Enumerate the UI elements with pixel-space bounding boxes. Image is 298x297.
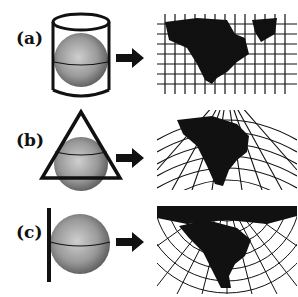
globe-cylinder-diagram [46,10,116,100]
row-conic: (b) [0,100,298,195]
row-planar: (c) [0,200,298,295]
arrow-icon [116,148,146,168]
map-conic [157,110,297,190]
map-cylindrical [157,14,297,94]
label-c: (c) [16,222,42,242]
arrow-icon [116,232,146,252]
map-planar [157,206,297,294]
label-a: (a) [16,28,43,48]
row-cylindrical: (a) [0,0,298,95]
arrow-icon [116,48,146,68]
globe-cone-diagram [38,108,124,200]
globe-plane-diagram [42,206,114,286]
